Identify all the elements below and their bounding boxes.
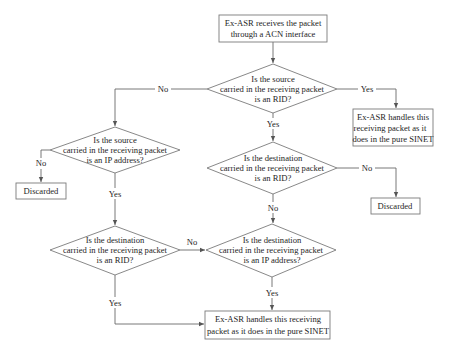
- node-text-line: carried in the receiving packet: [219, 245, 324, 255]
- edge-label-no: No: [158, 84, 169, 94]
- node-text-line: is an IP address?: [86, 155, 143, 165]
- node-text-line: carried in the receiving packet: [220, 84, 325, 94]
- edge-label-yes: Yes: [109, 298, 122, 308]
- node-text-line: Discarded: [378, 201, 414, 211]
- node-text-line: Discarded: [24, 186, 60, 196]
- edge-label-yes: Yes: [266, 288, 279, 298]
- discarded-node-right: Discarded: [371, 198, 420, 214]
- edge-dest-rid-left-yes: [115, 275, 204, 324]
- node-text-line: receiving packet as it: [354, 123, 427, 133]
- decision-destination-rid-center: Is the destination carried in the receiv…: [207, 142, 337, 194]
- decision-source-ip: Is the source carried in the receiving p…: [50, 127, 180, 173]
- node-text-line: Is the destination: [244, 153, 303, 163]
- node-text-line: carried in the receiving packet: [220, 163, 325, 173]
- node-text-line: is an RID?: [255, 94, 292, 104]
- node-text-line: carried in the receiving packet: [63, 245, 168, 255]
- edge-label-yes: Yes: [109, 189, 122, 199]
- node-text-line: is an RID?: [255, 173, 292, 183]
- node-text-line: does in the pure SINET: [352, 134, 434, 144]
- node-text-line: Ex-ASR handles this receiving: [215, 314, 322, 324]
- edge-source-rid-no-left: [115, 89, 207, 126]
- start-node: Ex-ASR receives the packet through a ACN…: [219, 15, 327, 42]
- node-text-line: is an IP address?: [243, 255, 300, 265]
- decision-source-rid: Is the source carried in the receiving p…: [207, 64, 337, 113]
- node-text-line: Is the destination: [86, 235, 145, 245]
- edge-label-no: No: [268, 203, 279, 213]
- node-text-line: carried in the receiving packet: [63, 145, 168, 155]
- edge-label-no: No: [362, 163, 373, 173]
- node-text-line: through a ACN interface: [231, 29, 316, 39]
- node-text-line: Ex-ASR receives the packet: [225, 18, 322, 28]
- flowchart: Yes No Yes No Yes No No No Yes Yes Ex-AS…: [0, 0, 452, 352]
- node-text-line: is an RID?: [97, 255, 134, 265]
- node-text-line: packet as it does in the pure SINET: [207, 326, 330, 336]
- edge-label-yes: Yes: [267, 119, 280, 129]
- handle-packet-node-right: Ex-ASR handles this receiving packet as …: [352, 109, 434, 146]
- decision-destination-ip: Is the destination carried in the receiv…: [206, 224, 336, 277]
- discarded-node-left: Discarded: [16, 183, 66, 199]
- edge-label-no: No: [36, 158, 47, 168]
- node-text-line: Is the source: [251, 74, 295, 84]
- handle-packet-node-bottom: Ex-ASR handles this receiving packet as …: [205, 311, 330, 339]
- node-text-line: Is the destination: [243, 235, 302, 245]
- node-text-line: Ex-ASR handles this: [357, 112, 430, 122]
- decision-destination-rid-left: Is the destination carried in the receiv…: [50, 226, 180, 275]
- edge-label-no: No: [187, 237, 198, 247]
- edge-label-yes: Yes: [361, 84, 374, 94]
- node-text-line: Is the source: [93, 135, 137, 145]
